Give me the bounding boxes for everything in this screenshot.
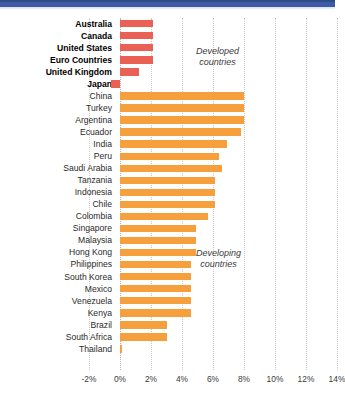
bar-colombia[interactable] <box>120 213 208 220</box>
x-axis: -2%0%2%4%6%8%10%12%14% <box>89 374 337 390</box>
bar-track <box>116 343 335 355</box>
bar-chile[interactable] <box>120 201 215 208</box>
bar-label-mexico: Mexico <box>0 285 116 294</box>
bar-kenya[interactable] <box>120 309 191 316</box>
bar-label-chile: Chile <box>0 200 116 209</box>
bar-label-tanzania: Tanzania <box>0 176 116 185</box>
bar-united-states[interactable] <box>120 44 153 51</box>
x-tick-label: 14% <box>329 374 345 384</box>
bar-label-indonesia: Indonesia <box>0 188 116 197</box>
bar-row: Japan <box>0 78 335 90</box>
bar-venezuela[interactable] <box>120 297 191 304</box>
bar-label-peru: Peru <box>0 152 116 161</box>
bar-row: Mexico <box>0 283 335 295</box>
bar-row: Malaysia <box>0 235 335 247</box>
x-tick-label: 0% <box>114 374 126 384</box>
bar-track <box>116 307 335 319</box>
bar-row: Euro Countries <box>0 54 335 66</box>
bar-track <box>116 30 335 42</box>
x-tick-label: 8% <box>238 374 250 384</box>
bar-china[interactable] <box>120 92 244 99</box>
bar-label-singapore: Singapore <box>0 224 116 233</box>
bar-row: Turkey <box>0 102 335 114</box>
bar-track <box>116 163 335 175</box>
annotation-developing: Developing countries <box>196 248 241 270</box>
bar-row: Saudi Arabia <box>0 163 335 175</box>
bar-hong-kong[interactable] <box>120 249 196 256</box>
bar-track <box>116 283 335 295</box>
bar-track <box>116 319 335 331</box>
bar-saudi-arabia[interactable] <box>120 165 222 172</box>
bar-thailand[interactable] <box>120 345 122 352</box>
bar-row: Chile <box>0 199 335 211</box>
bar-label-venezuela: Venezuela <box>0 297 116 306</box>
bar-row: United States <box>0 42 335 54</box>
bar-label-colombia: Colombia <box>0 212 116 221</box>
bar-label-china: China <box>0 92 116 101</box>
annotation-developed: Developed countries <box>196 46 239 68</box>
bar-row: Argentina <box>0 114 335 126</box>
bar-track <box>116 235 335 247</box>
bar-philippines[interactable] <box>120 261 191 268</box>
annotation-developing-line2: countries <box>196 259 241 270</box>
bar-row: Venezuela <box>0 295 335 307</box>
bar-peru[interactable] <box>120 153 219 160</box>
bar-row: Australia <box>0 18 335 30</box>
bar-label-ecuador: Ecuador <box>0 128 116 137</box>
bar-chart: AustraliaCanadaUnited StatesEuro Countri… <box>0 10 335 404</box>
bar-argentina[interactable] <box>120 116 244 123</box>
bar-row: Colombia <box>0 211 335 223</box>
bar-singapore[interactable] <box>120 225 196 232</box>
bar-row: Indonesia <box>0 187 335 199</box>
bar-turkey[interactable] <box>120 104 244 111</box>
bar-track <box>116 151 335 163</box>
bar-track <box>116 78 335 90</box>
bar-label-malaysia: Malaysia <box>0 236 116 245</box>
bar-track <box>116 18 335 30</box>
bar-label-hong-kong: Hong Kong <box>0 248 116 257</box>
bar-label-australia: Australia <box>0 20 116 29</box>
bar-rows: AustraliaCanadaUnited StatesEuro Countri… <box>0 18 335 355</box>
bar-track <box>116 102 335 114</box>
bar-australia[interactable] <box>120 20 153 27</box>
bar-mexico[interactable] <box>120 285 191 292</box>
bar-row: India <box>0 138 335 150</box>
bar-track <box>116 90 335 102</box>
bar-japan[interactable] <box>111 80 120 87</box>
bar-label-south-korea: South Korea <box>0 273 116 282</box>
x-tick-label: 6% <box>207 374 219 384</box>
bar-track <box>116 271 335 283</box>
bar-india[interactable] <box>120 140 227 147</box>
bar-ecuador[interactable] <box>120 128 241 135</box>
bar-label-united-kingdom: United Kingdom <box>0 68 116 77</box>
bar-tanzania[interactable] <box>120 177 215 184</box>
gridline-14% <box>337 18 338 370</box>
bar-track <box>116 175 335 187</box>
bar-united-kingdom[interactable] <box>120 68 139 75</box>
bar-malaysia[interactable] <box>120 237 196 244</box>
bar-euro-countries[interactable] <box>120 56 153 63</box>
bar-track <box>116 138 335 150</box>
bar-label-philippines: Philippines <box>0 260 116 269</box>
bar-row: Peru <box>0 151 335 163</box>
x-tick-label: 10% <box>267 374 284 384</box>
bar-south-korea[interactable] <box>120 273 191 280</box>
x-tick-label: 4% <box>176 374 188 384</box>
bar-row: Tanzania <box>0 175 335 187</box>
bar-track <box>116 295 335 307</box>
bar-track <box>116 114 335 126</box>
bar-canada[interactable] <box>120 32 153 39</box>
bar-label-japan: Japan <box>0 80 116 89</box>
bar-south-africa[interactable] <box>120 333 167 340</box>
bar-row: Philippines <box>0 259 335 271</box>
bar-brazil[interactable] <box>120 321 167 328</box>
bar-track <box>116 126 335 138</box>
bar-row: South Africa <box>0 331 335 343</box>
bar-row: Brazil <box>0 319 335 331</box>
bar-row: Thailand <box>0 343 335 355</box>
bar-row: Singapore <box>0 223 335 235</box>
x-tick-label: 2% <box>145 374 157 384</box>
bar-track <box>116 223 335 235</box>
bar-indonesia[interactable] <box>120 189 215 196</box>
annotation-developed-line2: countries <box>196 57 239 68</box>
